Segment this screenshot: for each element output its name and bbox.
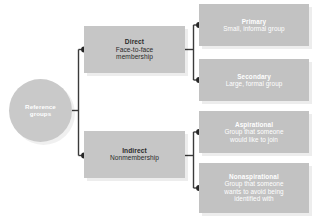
node-direct-desc-line2: membership xyxy=(116,53,153,61)
node-indirect[interactable]: Indirect Nonmembership xyxy=(84,131,185,178)
node-indirect-desc-line1: Nonmembership xyxy=(110,154,159,162)
node-reference-groups-desc: groups xyxy=(30,110,51,117)
node-primary-title: Primary xyxy=(242,18,267,25)
node-direct-title: Direct xyxy=(125,38,144,46)
node-indirect-title: Indirect xyxy=(122,147,147,155)
node-aspirational-title: Aspirational xyxy=(235,121,273,128)
node-secondary-desc-line1: Large, formal group xyxy=(226,80,283,88)
node-secondary[interactable]: Secondary Large, formal group xyxy=(199,59,309,101)
node-direct[interactable]: Direct Face-to-face membership xyxy=(84,26,185,73)
node-aspirational[interactable]: Aspirational Group that someone would li… xyxy=(199,111,309,153)
node-nonaspirational[interactable]: Nonaspirational Group that someone wants… xyxy=(199,163,309,213)
reference-groups-diagram: Reference groups Direct Face-to-face mem… xyxy=(0,0,318,218)
node-nonaspirational-title: Nonaspirational xyxy=(229,173,279,180)
node-nonaspirational-desc-line1: Group that someone xyxy=(224,180,283,188)
node-secondary-title: Secondary xyxy=(237,73,271,80)
node-nonaspirational-desc-line2: wants to avoid being xyxy=(224,188,283,196)
node-nonaspirational-desc-line3: identified with xyxy=(234,195,273,203)
node-aspirational-desc-line1: Group that someone xyxy=(224,128,283,136)
node-primary-desc-line1: Small, informal group xyxy=(223,25,284,33)
node-reference-groups-title: Reference xyxy=(25,103,56,110)
node-primary[interactable]: Primary Small, informal group xyxy=(199,4,309,46)
node-reference-groups[interactable]: Reference groups xyxy=(9,79,72,142)
node-aspirational-desc-line2: would like to join xyxy=(230,136,278,144)
node-direct-desc-line1: Face-to-face xyxy=(116,46,154,54)
